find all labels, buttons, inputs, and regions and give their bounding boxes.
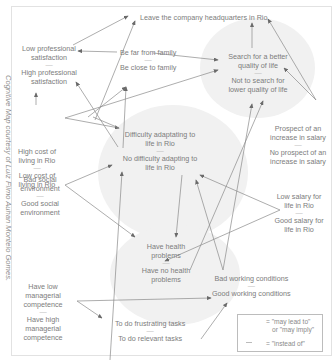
node-family: Be far from family — Be close to family (120, 48, 176, 72)
node-health: Have health problems — Have no health pr… (135, 242, 197, 284)
node-prospect: Prospect of an increase in salary — No p… (266, 124, 330, 166)
node-social: Bad social environment — Good social env… (18, 175, 62, 217)
node-salary: Low salary for life in Rio — Good salary… (272, 192, 326, 234)
legend-box: = "may lead to" or "may imply" = "instea… (237, 314, 323, 352)
legend-dash-label: = "instead of" (266, 340, 305, 347)
node-tasks: To do frustrating tasks — To do relevant… (115, 319, 185, 343)
node-quality: Search for a better quality of life — No… (222, 52, 294, 94)
legend-dash-icon (246, 342, 252, 343)
node-leave: Leave the company headquarters in Rio (140, 13, 267, 22)
node-adapt: Difficulty adaptating to life in Rio — N… (122, 130, 198, 172)
legend-arrow-label: = "may lead to" or "may imply" (266, 318, 314, 334)
node-working: Bad working conditions — Good working co… (212, 274, 291, 298)
node-managerial: Have low managerial competence — Have hi… (20, 282, 66, 342)
node-professional: Low professional satisfaction — High pro… (20, 44, 78, 86)
leave-label: Leave the company headquarters in Rio (140, 13, 267, 22)
